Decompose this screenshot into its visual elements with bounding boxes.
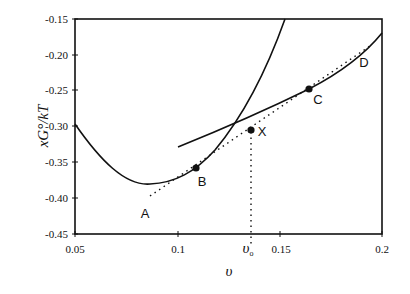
point-b-label: B <box>198 174 207 189</box>
point-c-label: C <box>313 92 322 107</box>
y-tick-label: -0.20 <box>45 49 68 61</box>
point-c-marker <box>305 85 312 92</box>
point-x-marker <box>247 126 254 133</box>
y-tick-label: -0.35 <box>45 156 68 168</box>
y-tick-label: -0.15 <box>45 13 68 25</box>
x-tick-labels: 0.05 0.1 0.15 0.2 <box>65 243 389 255</box>
point-x-label: X <box>258 124 267 139</box>
x-axis-title: υ <box>226 263 233 279</box>
upsilon-o-label: υo <box>243 240 254 258</box>
point-b-marker <box>192 164 199 171</box>
y-tick-label: -0.40 <box>45 192 68 204</box>
x-tick-label: 0.15 <box>271 243 291 255</box>
point-a-label: A <box>141 206 150 221</box>
x-tick-label: 0.05 <box>65 243 85 255</box>
phase-1-curve <box>75 19 285 184</box>
point-d-label: D <box>359 55 368 70</box>
common-tangent-line <box>150 46 370 196</box>
x-tick-label: 0.2 <box>375 243 389 255</box>
y-tick-label: -0.25 <box>45 84 68 96</box>
phase-2-curve <box>178 33 382 147</box>
chart: -0.15 -0.20 -0.25 -0.30 -0.35 -0.40 -0.4… <box>0 0 410 294</box>
y-tick-label: -0.45 <box>45 228 68 240</box>
x-tick-label: 0.1 <box>171 243 185 255</box>
y-axis-title: xG°/kT <box>35 103 51 148</box>
